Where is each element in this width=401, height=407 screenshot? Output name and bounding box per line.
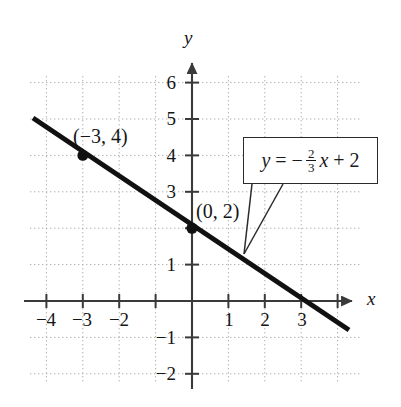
x-tick-label-neg3: −3 — [64, 310, 100, 329]
x-tick-label-neg2: −2 — [101, 310, 137, 329]
y-axis-label: y — [184, 28, 192, 47]
point-label-0-2: (0, 2) — [196, 201, 239, 221]
linear-graph-figure: 6 5 4 3 1 −1 −2 −4 −3 −2 1 2 3 y x (−3, … — [0, 0, 401, 407]
point-label-neg3-4: (−3, 4) — [73, 126, 128, 146]
fraction-numerator: 2 — [306, 147, 317, 160]
x-axis-label: x — [367, 289, 375, 308]
x-tick-label-neg4: −4 — [28, 310, 64, 329]
y-tick-label-6: 6 — [150, 73, 176, 92]
equation-text: y = − 2 3 x + 2 — [261, 147, 359, 175]
y-tick-label-5: 5 — [150, 109, 176, 128]
y-tick-label-4: 4 — [150, 146, 176, 165]
equation-variable: x — [319, 149, 328, 172]
point-marker-neg3-4 — [77, 150, 88, 161]
equation-constant: 2 — [350, 149, 360, 172]
y-tick-label-1: 1 — [150, 255, 176, 274]
callout-pointer — [244, 184, 283, 254]
y-tick-label-neg1: −1 — [144, 328, 176, 347]
equation-minus-sign: − — [292, 149, 303, 172]
equation-plus-sign: + — [333, 149, 344, 172]
equation-lhs: y — [261, 149, 270, 172]
point-marker-0-2 — [186, 223, 197, 234]
x-tick-label-3: 3 — [287, 310, 317, 329]
fraction-denominator: 3 — [306, 160, 317, 174]
x-tick-label-2: 2 — [250, 310, 280, 329]
equation-equals: = — [275, 149, 286, 172]
y-tick-label-3: 3 — [150, 182, 176, 201]
equation-callout-box: y = − 2 3 x + 2 — [243, 137, 378, 184]
equation-fraction: 2 3 — [306, 147, 317, 175]
y-tick-label-neg2: −2 — [144, 364, 176, 383]
x-tick-label-1: 1 — [214, 310, 244, 329]
